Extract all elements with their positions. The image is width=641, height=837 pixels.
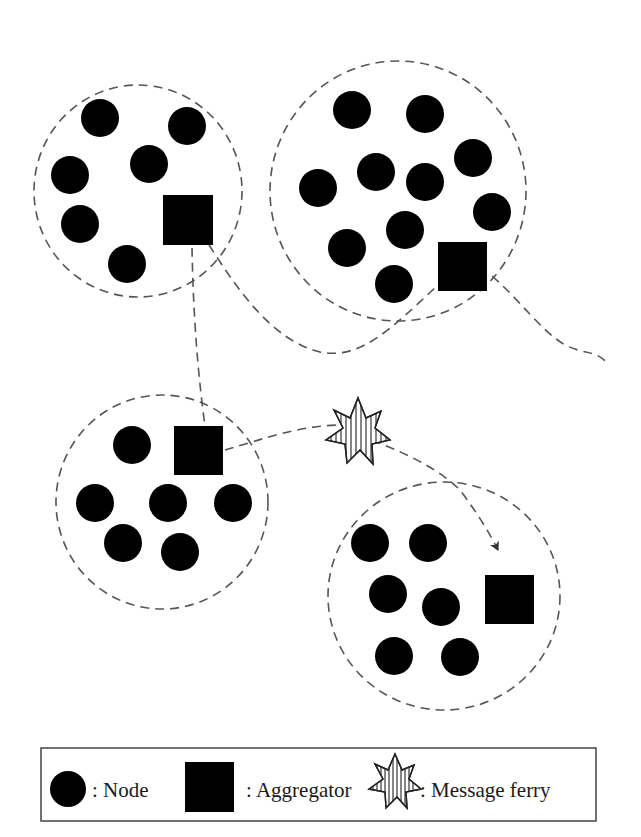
path-agg3-to-ferry — [225, 425, 342, 450]
node — [333, 91, 371, 129]
aggregator — [438, 242, 487, 291]
node — [357, 153, 395, 191]
node — [149, 484, 187, 522]
node — [104, 524, 142, 562]
legend-node-label: : Node — [92, 778, 149, 802]
node — [441, 638, 479, 676]
node — [406, 95, 444, 133]
node — [386, 211, 424, 249]
path-agg2-to-offscreen — [492, 276, 608, 364]
node — [51, 156, 89, 194]
node — [130, 145, 168, 183]
node — [351, 524, 389, 562]
legend-aggregator-icon — [185, 762, 234, 812]
cluster-top-left — [51, 99, 213, 283]
node — [108, 245, 146, 283]
legend: : Node : Aggregator : Message ferry — [41, 748, 596, 821]
legend-message-ferry-label: : Message ferry — [420, 778, 551, 802]
aggregator — [163, 195, 213, 245]
node — [76, 484, 114, 522]
cluster-mid-left — [76, 426, 252, 571]
legend-aggregator-label: : Aggregator — [246, 778, 352, 802]
node — [375, 637, 413, 675]
network-diagram: : Node : Aggregator : Message ferry — [0, 0, 641, 837]
node — [328, 229, 366, 267]
node — [113, 426, 151, 464]
node — [168, 107, 206, 145]
node — [473, 193, 511, 231]
aggregator — [485, 575, 534, 624]
node — [369, 575, 407, 613]
legend-node-icon — [50, 771, 86, 807]
node — [299, 169, 337, 207]
node — [161, 533, 199, 571]
node — [61, 205, 99, 243]
node — [375, 265, 413, 303]
node — [214, 484, 252, 522]
node — [422, 588, 460, 626]
node — [454, 139, 492, 177]
message-ferry-icon — [326, 395, 390, 470]
node — [409, 524, 447, 562]
node — [81, 99, 119, 137]
aggregator — [174, 426, 223, 475]
node — [406, 163, 444, 201]
cluster-top-right — [299, 91, 511, 303]
cluster-bottom-right — [351, 524, 534, 676]
